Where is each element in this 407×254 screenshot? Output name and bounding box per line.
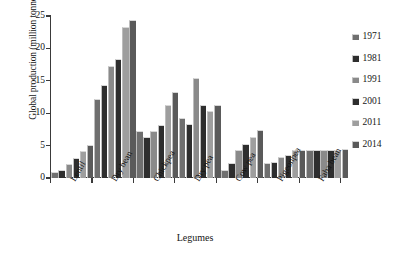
bar-1991-dry-pea [193,78,199,178]
legend-swatch-icon [352,55,359,62]
legend-item-1971[interactable]: 1971 [352,26,407,48]
bar-1971-cow-pea [221,170,227,178]
legend-label: 1991 [363,75,382,85]
bar-group [51,16,93,178]
y-axis-tick-label: 20 [19,43,45,53]
legend-item-1981[interactable]: 1981 [352,48,407,70]
chart-legend: 197119811991200120112014 [352,26,407,155]
legend-swatch-icon [352,77,359,84]
legend-item-2001[interactable]: 2001 [352,91,407,113]
legend-swatch-icon [352,34,359,41]
bar-group [221,16,263,178]
x-axis-tick [340,178,341,183]
bar-1981-dry-pea [186,124,192,178]
bar-1981-dry-bean [101,85,107,178]
y-axis-tick [46,113,51,114]
y-axis-tick-label: 15 [19,76,45,86]
bar-1971-pigeonpea [264,163,270,178]
y-axis-tick [46,145,51,146]
y-axis-tick-label: 25 [19,11,45,21]
bar-2014-dry-pea [214,105,220,178]
bar-chart-figure: Global production (million tonnes) 05101… [0,0,407,254]
bar-1991-dry-bean [108,66,114,178]
bar-2014-faba-bean [342,149,348,178]
legend-label: 2011 [363,118,382,128]
y-axis-tick-label: 0 [19,173,45,183]
legend-item-2014[interactable]: 2014 [352,134,407,156]
x-axis-title: Legumes [50,232,340,243]
bar-1971-chickpea [136,131,142,178]
legend-label: 2014 [363,140,382,150]
bar-group [178,16,220,178]
y-axis-tick-label: 5 [19,141,45,151]
y-axis-tick-label: 10 [19,108,45,118]
bar-group [306,16,348,178]
legend-swatch-icon [352,120,359,127]
legend-item-2011[interactable]: 2011 [352,112,407,134]
bar-2014-chickpea [172,92,178,178]
legend-swatch-icon [352,98,359,105]
legend-label: 1981 [363,54,382,64]
legend-swatch-icon [352,141,359,148]
bar-1971-faba-bean [306,150,312,179]
y-axis-title: Global production (million tonnes) [28,0,38,140]
y-axis-tick [46,48,51,49]
legend-item-1991[interactable]: 1991 [352,69,407,91]
bar-1981-chickpea [143,137,149,178]
bar-2014-lentil [87,145,93,178]
bar-1971-dry-pea [179,118,185,178]
bar-2014-cow-pea [257,130,263,178]
legend-label: 1971 [363,32,382,42]
bar-1981-lentil [58,170,64,178]
y-axis-tick [46,80,51,81]
y-axis-tick [46,15,51,16]
legend-label: 2001 [363,97,382,107]
x-axis-category-labels: LentilDry beanChickpeaDry peaCow peaPige… [50,178,340,230]
bar-1971-dry-bean [94,99,100,178]
